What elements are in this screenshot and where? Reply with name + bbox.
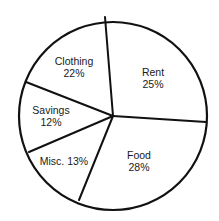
- slice-rent-name: Rent: [142, 66, 164, 78]
- slice-savings-pct: 12%: [40, 116, 61, 128]
- pie-chart: Rent 25% Food 28% Misc. 13% Savings 12% …: [0, 0, 219, 221]
- slice-rent-pct: 25%: [142, 78, 163, 90]
- slice-misc-label: Misc. 13%: [40, 155, 88, 167]
- slice-misc: Misc. 13%: [40, 155, 88, 167]
- slice-savings-name: Savings: [32, 104, 69, 116]
- slice-clothing-name: Clothing: [55, 55, 94, 67]
- slice-food-name: Food: [127, 149, 151, 161]
- slice-clothing-pct: 22%: [63, 67, 84, 79]
- slice-rent: Rent 25%: [142, 66, 164, 90]
- slice-food: Food 28%: [127, 149, 151, 173]
- slice-food-pct: 28%: [128, 161, 149, 173]
